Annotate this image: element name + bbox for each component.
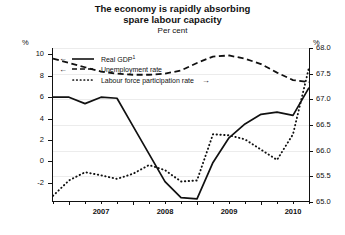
- right-axis-label: 68.0: [316, 44, 345, 52]
- right-axis-label: 65.0: [316, 198, 345, 206]
- chart-title-line-2: spare labour capacity: [0, 15, 345, 26]
- left-axis-label: 6: [14, 93, 44, 101]
- left-axis-label: 10: [14, 50, 44, 58]
- chart-title: The economy is rapidly absorbing spare l…: [0, 4, 345, 25]
- right-axis-label: 67.0: [316, 95, 345, 103]
- legend-swatch-dotted: [72, 76, 94, 84]
- left-axis-label: 4: [14, 115, 44, 123]
- chart-container: The economy is rapidly absorbing spare l…: [0, 0, 345, 235]
- legend-item-participation-rate: Labour force participation rate →: [56, 74, 216, 85]
- legend-swatch-dashed: [72, 65, 94, 73]
- legend-swatch-solid: [72, 55, 94, 63]
- legend-item-unemployment-rate: ← Unemployment rate: [56, 63, 216, 74]
- left-axis-label: 0: [14, 157, 44, 165]
- x-axis-label: 2010: [271, 207, 315, 216]
- left-axis-label: -2: [14, 179, 44, 187]
- right-axis-label: 66.0: [316, 147, 345, 155]
- series-line-labour-force-participation-rate: [53, 68, 309, 196]
- legend-right-arrow-icon: →: [196, 75, 216, 86]
- chart-title-line-1: The economy is rapidly absorbing: [0, 4, 345, 15]
- x-axis-label: 2009: [207, 207, 251, 216]
- x-axis-label: 2008: [143, 207, 187, 216]
- legend-label-participation-rate: Labour force participation rate: [96, 75, 194, 86]
- left-axis-unit: %: [22, 38, 29, 47]
- legend-label-unemployment-rate: Unemployment rate: [96, 64, 162, 75]
- chart-legend: ← Real GDP1 ← Unemployment rate Labour f…: [56, 52, 216, 85]
- left-axis-label: 8: [14, 72, 44, 80]
- right-axis-label: 66.5: [316, 121, 345, 129]
- x-axis-label: 2007: [79, 207, 123, 216]
- legend-left-arrow-icon: ←: [56, 64, 70, 75]
- right-axis-label: 65.5: [316, 172, 345, 180]
- legend-item-real-gdp: ← Real GDP1: [56, 52, 216, 63]
- chart-subtitle: Per cent: [0, 26, 345, 35]
- left-axis-label: 2: [14, 136, 44, 144]
- right-axis-label: 67.5: [316, 70, 345, 78]
